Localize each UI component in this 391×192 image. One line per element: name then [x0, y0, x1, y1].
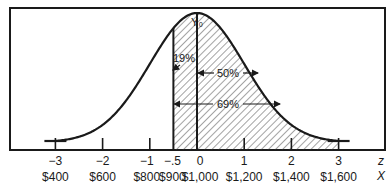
normal-curve-chart: −3$400−2$600−1$800−.5$9000$1,0001$1,2002… [0, 0, 391, 192]
x-tick-label: $1,000 [182, 170, 219, 184]
z-tick-label: 3 [335, 154, 342, 168]
z-tick-label: 1 [241, 154, 248, 168]
z-tick-label: −.5 [164, 154, 181, 168]
z-tick-label: 2 [288, 154, 295, 168]
x-tick-label: $400 [42, 170, 69, 184]
x-tick-label: $800 [133, 170, 160, 184]
x-tick-label: $1,400 [273, 170, 310, 184]
x-axis-name: X [376, 169, 386, 183]
z-axis-name: z [377, 154, 384, 168]
annotation-50-label: 50% [217, 67, 239, 79]
z-tick-label: −2 [96, 154, 110, 168]
z-tick-label: −1 [140, 154, 154, 168]
peak-label: Y₀ [191, 16, 203, 28]
x-tick-label: $600 [89, 170, 116, 184]
x-tick-label: $1,600 [320, 170, 357, 184]
x-tick-label: $1,200 [226, 170, 263, 184]
z-tick-label: 0 [197, 154, 204, 168]
annotation-19-label: 19% [173, 52, 195, 64]
annotation-69-label: 69% [217, 98, 239, 110]
z-tick-label: −3 [49, 154, 63, 168]
